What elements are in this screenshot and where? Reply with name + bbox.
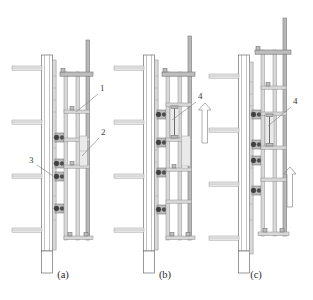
callout-3-label: 3	[29, 155, 34, 165]
anchor-bolt-assembly	[156, 205, 166, 214]
panel-b-caption: (b)	[159, 269, 172, 281]
anchor-bolt-assembly	[54, 159, 64, 168]
panel-c-hydraulic-jack	[265, 114, 274, 146]
anchor-bolt-assembly	[54, 204, 64, 213]
climbing-scaffold-diagram: 1 2 3 (a)	[0, 0, 313, 300]
panel-c-wall	[239, 55, 250, 273]
panel-c: 4 (c)	[209, 18, 298, 281]
callout-4-label: 4	[293, 96, 298, 106]
callout-4-label: 4	[198, 91, 203, 101]
panel-a-anchor-strip	[53, 60, 57, 250]
panel-a: 1 2 3 (a)	[12, 40, 106, 281]
panel-a-platform-bracket	[79, 136, 87, 166]
panel-b-hydraulic-jack	[170, 106, 179, 138]
panel-b-anchor-strip	[155, 60, 159, 250]
anchor-bolt-assembly	[156, 168, 166, 177]
anchor-bolt-assembly	[251, 110, 261, 119]
anchor-bolt-assembly	[251, 156, 261, 165]
panel-c-caption: (c)	[250, 269, 262, 281]
anchor-bolt-assembly	[251, 186, 261, 195]
panel-a-caption: (a)	[57, 269, 69, 281]
panel-b-wall	[144, 55, 155, 273]
figure-root: 1 2 3 (a)	[0, 0, 313, 300]
panel-c-floor-slabs	[209, 74, 239, 240]
panel-a-floor-slabs	[12, 66, 42, 232]
panel-b-floor-slabs	[114, 66, 144, 232]
anchor-bolt-assembly	[54, 133, 64, 142]
anchor-bolt-assembly	[251, 140, 261, 149]
anchor-bolt-assembly	[54, 172, 64, 181]
panel-b-motion-arrow	[199, 103, 212, 143]
callout-2-label: 2	[101, 127, 106, 137]
callout-1-label: 1	[100, 83, 105, 93]
anchor-bolt-assembly	[156, 138, 166, 147]
panel-b: 4 (b)	[114, 36, 211, 281]
panel-b-side-panel	[181, 136, 190, 166]
anchor-bolt-assembly	[156, 110, 166, 119]
panel-a-wall	[42, 55, 53, 273]
